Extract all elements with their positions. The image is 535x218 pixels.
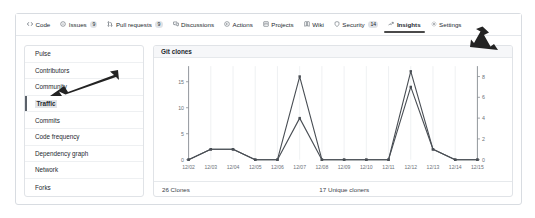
- tab-projects[interactable]: Projects: [258, 18, 299, 32]
- tab-label: Pull requests: [116, 21, 152, 28]
- sidebar-item-community[interactable]: Community: [25, 79, 143, 96]
- code-icon: [27, 21, 33, 27]
- tab-label: Settings: [439, 21, 461, 28]
- sidebar-item-commits[interactable]: Commits: [25, 112, 143, 129]
- svg-text:12/08: 12/08: [316, 164, 329, 170]
- graph-icon: [388, 21, 394, 27]
- svg-text:12/06: 12/06: [271, 164, 284, 170]
- gear-icon: [431, 21, 437, 27]
- tab-issues[interactable]: Issues 9: [55, 18, 102, 32]
- tab-label: Issues: [69, 21, 87, 28]
- svg-text:4: 4: [482, 115, 485, 121]
- play-icon: [224, 21, 230, 27]
- sidebar-item-contributors[interactable]: Contributors: [25, 63, 143, 80]
- panel-title: Git clones: [154, 46, 512, 58]
- clones-total: 26 Clones: [162, 186, 319, 193]
- shield-icon: [334, 21, 340, 27]
- pull-requests-count-badge: 9: [155, 21, 162, 28]
- sidebar-item-pulse[interactable]: Pulse: [25, 46, 143, 63]
- svg-text:12/02: 12/02: [182, 164, 195, 170]
- svg-text:12/14: 12/14: [449, 164, 462, 170]
- svg-text:12/04: 12/04: [227, 164, 240, 170]
- svg-text:15: 15: [178, 79, 184, 85]
- sidebar-item-network[interactable]: Network: [25, 162, 143, 179]
- tab-label: Insights: [397, 21, 421, 28]
- book-icon: [304, 21, 310, 27]
- chart-area: 0510150246812/0212/0312/0412/0512/0612/0…: [154, 58, 512, 181]
- svg-text:12/07: 12/07: [293, 164, 306, 170]
- sidebar-item-dependency-graph[interactable]: Dependency graph: [25, 146, 143, 163]
- unique-cloners-total: 17 Unique cloners: [319, 186, 504, 193]
- svg-text:12/13: 12/13: [427, 164, 440, 170]
- comment-discussion-icon: [173, 21, 179, 27]
- issues-count-badge: 9: [90, 21, 97, 28]
- sidebar-item-code-frequency[interactable]: Code frequency: [25, 129, 143, 146]
- git-clones-panel: Git clones 0510150246812/0212/0312/0412/…: [153, 45, 513, 197]
- tab-label: Code: [36, 21, 51, 28]
- tab-label: Wiki: [312, 21, 324, 28]
- tab-code[interactable]: Code: [22, 18, 55, 32]
- tab-security[interactable]: Security 14: [329, 18, 384, 32]
- tab-discussions[interactable]: Discussions: [168, 18, 220, 32]
- git-clones-line-chart: 0510150246812/0212/0312/0412/0512/0612/0…: [154, 58, 512, 181]
- sidebar-item-label: Pulse: [35, 50, 51, 57]
- svg-text:12/12: 12/12: [404, 164, 417, 170]
- tab-actions[interactable]: Actions: [219, 18, 258, 32]
- svg-text:12/10: 12/10: [360, 164, 373, 170]
- tab-label: Security: [342, 21, 364, 28]
- tab-label: Discussions: [181, 21, 214, 28]
- svg-text:2: 2: [482, 136, 485, 142]
- issue-opened-icon: [60, 21, 66, 27]
- svg-text:0: 0: [181, 157, 184, 163]
- sidebar-item-label: Contributors: [35, 67, 69, 74]
- tab-pull-requests[interactable]: Pull requests 9: [102, 18, 167, 32]
- sidebar-item-label: Dependency graph: [35, 150, 88, 157]
- svg-text:12/09: 12/09: [338, 164, 351, 170]
- svg-text:5: 5: [181, 131, 184, 137]
- panel-footer: 26 Clones 17 Unique cloners: [154, 181, 512, 196]
- svg-text:10: 10: [178, 105, 184, 111]
- insights-body: Pulse Contributors Community Traffic Com…: [16, 36, 521, 205]
- tab-insights[interactable]: Insights: [383, 18, 425, 32]
- svg-text:12/15: 12/15: [471, 164, 484, 170]
- svg-text:12/11: 12/11: [382, 164, 395, 170]
- svg-text:6: 6: [482, 95, 485, 101]
- repo-window: Code Issues 9 Pull requests 9: [15, 13, 522, 205]
- sidebar-item-label: Forks: [35, 184, 51, 191]
- sidebar-item-label: Traffic: [35, 100, 57, 108]
- security-count-badge: 14: [368, 21, 378, 28]
- tab-label: Projects: [271, 21, 293, 28]
- screenshot-root: Code Issues 9 Pull requests 9: [0, 0, 535, 218]
- sidebar-item-traffic[interactable]: Traffic: [25, 96, 143, 113]
- svg-text:12/05: 12/05: [249, 164, 262, 170]
- sidebar-item-label: Network: [35, 166, 58, 173]
- git-pull-request-icon: [107, 21, 113, 27]
- sidebar-item-forks[interactable]: Forks: [25, 179, 143, 196]
- sidebar-item-label: Community: [35, 83, 67, 90]
- svg-text:12/03: 12/03: [204, 164, 217, 170]
- tab-label: Actions: [233, 21, 253, 28]
- svg-text:0: 0: [482, 157, 485, 163]
- sidebar-item-label: Code frequency: [35, 133, 79, 140]
- insights-sidebar: Pulse Contributors Community Traffic Com…: [24, 45, 144, 197]
- project-icon: [263, 21, 269, 27]
- sidebar-item-label: Commits: [35, 117, 60, 124]
- repo-nav-tabs: Code Issues 9 Pull requests 9: [16, 14, 521, 36]
- tab-settings[interactable]: Settings: [426, 18, 467, 32]
- svg-text:8: 8: [482, 74, 485, 80]
- tab-wiki[interactable]: Wiki: [299, 18, 329, 32]
